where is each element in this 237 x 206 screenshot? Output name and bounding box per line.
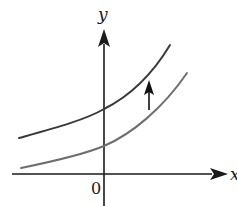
x-axis xyxy=(12,168,228,180)
origin-label: 0 xyxy=(91,181,101,197)
x-axis-arrow-icon xyxy=(210,168,228,180)
shift-up-arrow-icon xyxy=(144,80,154,110)
plot-canvas xyxy=(0,0,237,206)
exponential-shift-diagram: y x 0 xyxy=(0,0,237,206)
y-axis-label: y xyxy=(98,6,108,23)
x-axis-label: x xyxy=(230,166,237,183)
